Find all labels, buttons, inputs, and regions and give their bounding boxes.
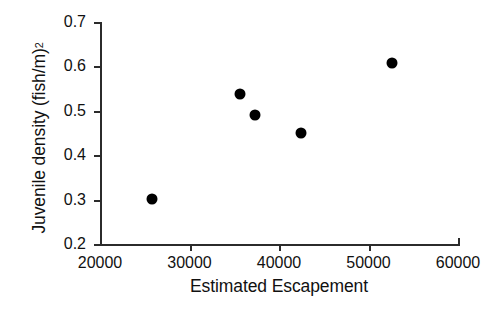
y-tick: 0.3 (94, 200, 101, 202)
x-tick (279, 244, 281, 251)
plot-area: 0.20.30.40.50.60.7 200003000040000500006… (100, 22, 458, 245)
x-tick-label: 30000 (167, 254, 212, 272)
x-tick-label: 40000 (257, 254, 302, 272)
y-axis-title-text: Juvenile density (fish/m) (29, 48, 50, 233)
y-tick-label: 0.3 (64, 191, 86, 209)
y-tick-label: 0.7 (64, 13, 86, 31)
y-tick: 0.5 (94, 111, 101, 113)
y-axis-title: Juvenile density (fish/m)2 (22, 8, 56, 268)
y-tick: 0.4 (94, 155, 101, 157)
data-point (296, 128, 307, 139)
x-axis-title: Estimated Escapement (100, 276, 458, 297)
data-point (249, 110, 260, 121)
data-point (146, 194, 157, 205)
data-point (234, 88, 245, 99)
y-tick-label: 0.6 (64, 57, 86, 75)
x-tick (190, 244, 192, 251)
y-axis-line (100, 22, 102, 246)
y-tick: 0.7 (94, 22, 101, 24)
y-tick-label: 0.4 (64, 146, 86, 164)
x-tick-label: 50000 (346, 254, 391, 272)
x-tick (100, 238, 102, 246)
x-tick (369, 244, 371, 251)
y-tick-label: 0.2 (64, 235, 86, 253)
y-tick-label: 0.5 (64, 102, 86, 120)
y-tick: 0.6 (94, 66, 101, 68)
data-point (386, 57, 397, 68)
scatter-chart-figure: Juvenile density (fish/m)2 Estimated Esc… (0, 0, 502, 319)
x-tick (458, 238, 460, 246)
x-tick-label: 20000 (78, 254, 123, 272)
x-tick-label: 60000 (436, 254, 481, 272)
